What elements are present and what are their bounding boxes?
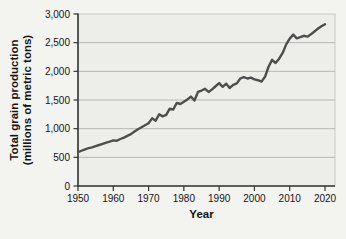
y-tick-label: 2,500: [45, 37, 70, 48]
grain-production-figure: 05001,0001,5002,0002,5003,00019501960197…: [0, 0, 346, 239]
y-tick-label: 2,000: [45, 66, 70, 77]
y-tick-label: 3,000: [45, 9, 70, 20]
y-tick-label: 1,000: [45, 123, 70, 134]
x-tick-label: 2000: [243, 193, 266, 204]
x-tick-label: 2020: [314, 193, 337, 204]
x-tick-label: 2010: [279, 193, 302, 204]
y-axis-title-line2: (millions of metric tons): [21, 35, 34, 165]
x-tick-label: 1990: [208, 193, 231, 204]
x-tick-label: 1980: [173, 193, 196, 204]
x-tick-label: 1970: [137, 193, 160, 204]
x-tick-label: 1950: [67, 193, 90, 204]
x-axis-title: Year: [78, 208, 325, 220]
y-tick-label: 0: [64, 181, 70, 192]
y-axis-title: Total grain production (millions of metr…: [8, 35, 34, 165]
y-tick-label: 500: [53, 152, 70, 163]
x-tick-label: 1960: [102, 193, 125, 204]
y-tick-label: 1,500: [45, 95, 70, 106]
y-axis-title-line1: Total grain production: [8, 35, 21, 165]
grain-production-chart-canvas: 05001,0001,5002,0002,5003,00019501960197…: [0, 0, 346, 239]
